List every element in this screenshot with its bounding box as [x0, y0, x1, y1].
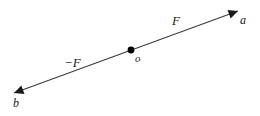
force-line — [14, 11, 238, 93]
label-origin: o — [135, 53, 141, 64]
force-line-diagram: F −F o a b — [0, 0, 260, 116]
label-force-positive: F — [172, 14, 180, 27]
diagram-canvas — [0, 0, 260, 116]
label-endpoint-a: a — [240, 14, 246, 26]
label-endpoint-b: b — [13, 97, 19, 109]
label-force-negative: −F — [64, 56, 81, 69]
origin-dot — [128, 47, 135, 54]
